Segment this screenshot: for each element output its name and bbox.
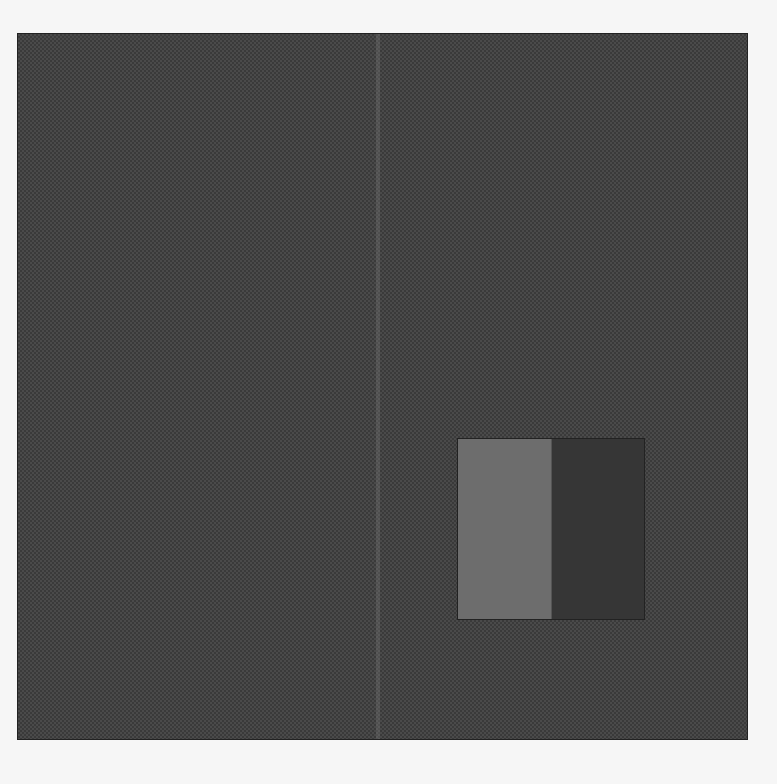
center-fold-line: [376, 34, 380, 739]
color-swatch: [457, 438, 645, 620]
swatch-light-half: [458, 439, 552, 619]
header-text: [260, 0, 520, 8]
halftone-panel: [17, 33, 748, 740]
swatch-dark-half: [552, 439, 644, 619]
